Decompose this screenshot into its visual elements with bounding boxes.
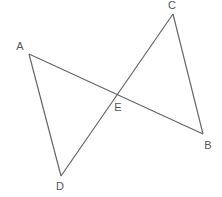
label-a: A [16, 40, 24, 52]
label-d: D [56, 180, 64, 192]
segment-ab [29, 54, 203, 134]
label-c: C [168, 0, 176, 11]
segment-cb [173, 14, 203, 134]
segments [29, 14, 203, 176]
label-b: B [204, 139, 211, 151]
point-labels: A B C D E [16, 0, 211, 192]
segment-cd [61, 14, 173, 176]
geometry-diagram: A B C D E [0, 0, 222, 197]
diagram-svg: A B C D E [0, 0, 222, 197]
label-e: E [114, 101, 121, 113]
segment-ad [29, 54, 61, 176]
